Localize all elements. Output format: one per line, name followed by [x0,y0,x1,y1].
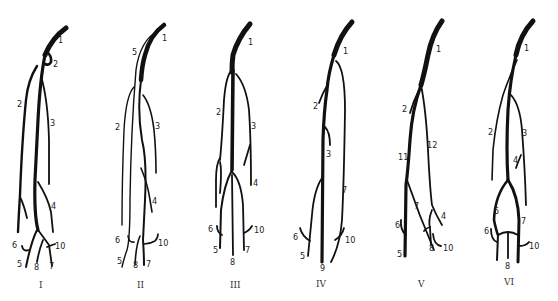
vessel-variants-diagram: 1 2 2 3 4 6 10 5 8 7 I 1 5 2 3 4 6 10 5 … [0,0,558,301]
label-3: 3 [251,121,256,131]
label-2: 2 [402,104,407,114]
panel-III: 1 2 3 4 6 10 5 7 8 III [208,24,264,290]
panel-V: 1 2 11 12 7 4 6 8 10 5 V [395,21,453,289]
label-11: 11 [398,152,408,162]
label-1: 1 [524,43,529,53]
label-2: 2 [313,101,318,111]
panel-IV: 1 2 3 7 6 10 5 9 IV [293,22,355,289]
label-6: 6 [395,220,400,230]
panel-numeral: VI [503,277,514,287]
label-1: 1 [343,46,348,56]
label-10: 10 [529,241,539,251]
label-5: 5 [17,259,22,269]
label-8: 8 [429,243,434,253]
label-1: 1 [436,44,441,54]
label-2: 2 [488,127,493,137]
panel-numeral: V [417,279,425,289]
label-10: 10 [443,243,453,253]
label-8: 8 [505,261,510,271]
label-7: 7 [521,216,526,226]
panel-numeral: II [137,280,145,290]
label-7: 7 [146,259,151,269]
panel-numeral: I [39,280,43,290]
label-7: 7 [342,185,347,195]
label-1: 1 [248,37,253,47]
label-4: 4 [152,196,157,206]
label-10: 10 [345,235,355,245]
label-2: 2 [115,122,120,132]
label-6: 6 [208,224,213,234]
label-5: 5 [494,206,499,216]
panel-II: 1 5 2 3 4 6 10 5 8 7 II [115,25,168,290]
label-7: 7 [245,245,250,255]
label-8: 8 [133,260,138,270]
label-6: 6 [293,232,298,242]
label-6: 6 [484,226,489,236]
label-5: 5 [300,251,305,261]
label-5: 5 [397,249,402,259]
label-4: 4 [253,178,258,188]
label-9: 9 [320,263,325,273]
label-1: 1 [58,35,63,45]
label-2: 2 [17,99,22,109]
label-12: 12 [427,140,437,150]
label-4: 4 [51,201,56,211]
panel-VI: 1 2 3 4 5 7 6 10 8 VI [484,21,539,287]
label-10: 10 [254,225,264,235]
label-5: 5 [132,47,137,57]
label-4: 4 [441,211,446,221]
panel-numeral: III [230,280,241,290]
label-7: 7 [414,201,419,211]
label-3: 3 [522,128,527,138]
label-3: 3 [326,149,331,159]
label-5: 5 [117,256,122,266]
label-1: 1 [162,33,167,43]
label-2: 2 [216,107,221,117]
label-8: 8 [230,257,235,267]
label-8: 8 [34,262,39,272]
label-6: 6 [115,235,120,245]
label-7: 7 [49,261,54,271]
panel-I: 1 2 2 3 4 6 10 5 8 7 I [12,28,66,290]
label-3: 3 [50,118,55,128]
label-10: 10 [55,241,65,251]
label-4: 4 [513,155,518,165]
label-2: 2 [53,59,58,69]
label-10: 10 [158,238,168,248]
panel-numeral: IV [316,279,327,289]
label-3: 3 [155,121,160,131]
label-5: 5 [213,245,218,255]
label-6: 6 [12,240,17,250]
